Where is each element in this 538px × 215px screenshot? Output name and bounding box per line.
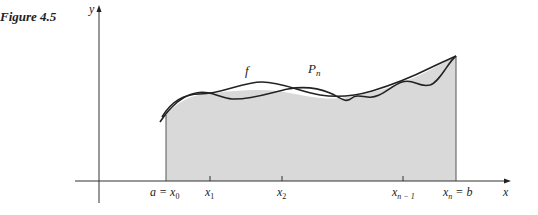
tick-label-a-x0: a = x0 (150, 185, 179, 201)
tick-label-x1: x1 (204, 185, 214, 201)
diagram: y x f Pn a = x0 x1 x2 xn − 1 xn = b (0, 0, 538, 215)
y-axis-arrow (97, 5, 102, 12)
y-axis-label: y (88, 2, 95, 16)
pn-label: Pn (307, 61, 321, 78)
tick-label-x2: x2 (276, 185, 286, 201)
f-label: f (245, 63, 251, 78)
tick-label-xn-1: xn − 1 (391, 185, 415, 201)
x-axis-label: x (502, 185, 509, 199)
tick-label-xn-b: xn = b (442, 185, 472, 201)
x-axis-arrow (504, 179, 511, 184)
